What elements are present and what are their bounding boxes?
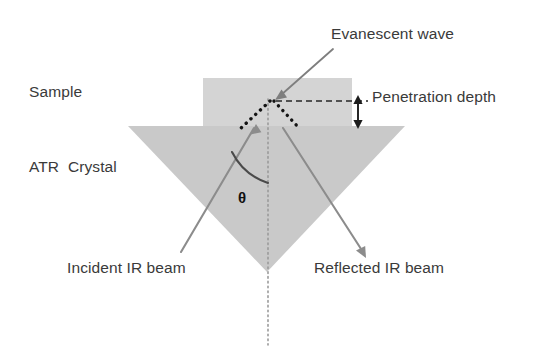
atr-diagram: Sample ATR Crystal Evanescent wave Penet… bbox=[0, 0, 534, 357]
incident-beam-label: Incident IR beam bbox=[67, 260, 186, 276]
atr-crystal-label: ATR Crystal bbox=[29, 159, 117, 175]
reflected-beam-label: Reflected IR beam bbox=[314, 260, 444, 276]
evanescent-wave-label: Evanescent wave bbox=[331, 26, 454, 42]
diagram-canvas bbox=[0, 0, 534, 357]
penetration-depth-arrowhead-up bbox=[353, 95, 362, 104]
sample-block bbox=[203, 78, 352, 126]
penetration-depth-label: Penetration depth bbox=[372, 89, 496, 105]
theta-symbol-label: θ bbox=[238, 190, 246, 205]
sample-label: Sample bbox=[29, 84, 82, 100]
